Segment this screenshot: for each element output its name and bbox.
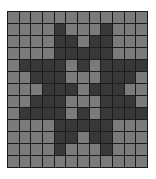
grid-cell-r3-c9 [113, 48, 124, 59]
grid-cell-r7-c11 [136, 96, 147, 107]
grid-cell-r3-c8 [101, 48, 112, 59]
grid-cell-r12-c8 [101, 156, 112, 167]
grid-cell-r2-c7 [90, 36, 101, 47]
grid-cell-r2-c3 [43, 36, 54, 47]
grid-cell-r8-c4 [55, 108, 66, 119]
grid-cell-r1-c11 [136, 24, 147, 35]
grid-cell-r9-c9 [113, 120, 124, 131]
grid-cell-r5-c2 [31, 72, 42, 83]
grid-cell-r12-c9 [113, 156, 124, 167]
grid-cell-r11-c5 [66, 144, 77, 155]
grid-cell-r1-c8 [101, 24, 112, 35]
grid-cell-r0-c0 [8, 12, 19, 23]
grid-cell-r5-c6 [78, 72, 89, 83]
grid-cell-r10-c9 [113, 132, 124, 143]
grid-cell-r7-c2 [31, 96, 42, 107]
grid-cell-r7-c4 [55, 96, 66, 107]
grid-cell-r11-c11 [136, 144, 147, 155]
grid-cell-r7-c10 [125, 96, 136, 107]
grid-cell-r9-c10 [125, 120, 136, 131]
grid-cell-r8-c8 [101, 108, 112, 119]
grid-cell-r1-c6 [78, 24, 89, 35]
grid-cell-r9-c3 [43, 120, 54, 131]
grid-cell-r9-c5 [66, 120, 77, 131]
grid-cell-r11-c10 [125, 144, 136, 155]
grid-cell-r3-c6 [78, 48, 89, 59]
grid-cell-r1-c10 [125, 24, 136, 35]
grid-cell-r12-c11 [136, 156, 147, 167]
grid-cell-r2-c8 [101, 36, 112, 47]
grid-cell-r7-c9 [113, 96, 124, 107]
grid-cell-r8-c9 [113, 108, 124, 119]
grid-cell-r9-c6 [78, 120, 89, 131]
grid-cell-r10-c5 [66, 132, 77, 143]
grid-cell-r4-c0 [8, 60, 19, 71]
grid-cell-r2-c9 [113, 36, 124, 47]
grid-cell-r6-c10 [125, 84, 136, 95]
grid-cell-r11-c1 [20, 144, 31, 155]
grid-cell-r10-c3 [43, 132, 54, 143]
grid-cell-r0-c7 [90, 12, 101, 23]
grid-cell-r8-c2 [31, 108, 42, 119]
grid-cell-r9-c0 [8, 120, 19, 131]
grid-cell-r8-c7 [90, 108, 101, 119]
grid-cell-r1-c7 [90, 24, 101, 35]
grid-cell-r0-c11 [136, 12, 147, 23]
grid-cell-r11-c7 [90, 144, 101, 155]
grid-cell-r6-c9 [113, 84, 124, 95]
grid-cell-r0-c10 [125, 12, 136, 23]
grid-cell-r4-c3 [43, 60, 54, 71]
grid-cell-r0-c4 [55, 12, 66, 23]
grid-cell-r10-c4 [55, 132, 66, 143]
grid-cell-r11-c9 [113, 144, 124, 155]
grid-cell-r3-c4 [55, 48, 66, 59]
grid-cell-r9-c2 [31, 120, 42, 131]
grid-cell-r2-c1 [20, 36, 31, 47]
grid-cell-r11-c3 [43, 144, 54, 155]
grid-cell-r6-c6 [78, 84, 89, 95]
grid-cell-r10-c10 [125, 132, 136, 143]
grid-cell-r4-c4 [55, 60, 66, 71]
grid-cell-r12-c1 [20, 156, 31, 167]
grid-cell-r9-c8 [101, 120, 112, 131]
grid-cell-r12-c2 [31, 156, 42, 167]
grid-cell-r2-c2 [31, 36, 42, 47]
grid-cell-r4-c6 [78, 60, 89, 71]
grid-cell-r7-c6 [78, 96, 89, 107]
grid-cell-r4-c1 [20, 60, 31, 71]
grid-cell-r12-c5 [66, 156, 77, 167]
snowflake-pattern-grid [7, 11, 148, 168]
grid-cell-r9-c1 [20, 120, 31, 131]
grid-cell-r8-c1 [20, 108, 31, 119]
grid-cell-r5-c1 [20, 72, 31, 83]
grid-cell-r0-c9 [113, 12, 124, 23]
grid-cell-r2-c6 [78, 36, 89, 47]
grid-cell-r6-c3 [43, 84, 54, 95]
grid-cell-r3-c5 [66, 48, 77, 59]
grid-cell-r3-c3 [43, 48, 54, 59]
grid-cell-r10-c1 [20, 132, 31, 143]
grid-cell-r12-c10 [125, 156, 136, 167]
grid-cell-r0-c3 [43, 12, 54, 23]
grid-cell-r0-c8 [101, 12, 112, 23]
grid-cell-r1-c3 [43, 24, 54, 35]
grid-cell-r10-c2 [31, 132, 42, 143]
grid-cell-r4-c5 [66, 60, 77, 71]
grid-cell-r7-c8 [101, 96, 112, 107]
grid-cell-r5-c9 [113, 72, 124, 83]
grid-cell-r2-c10 [125, 36, 136, 47]
grid-cell-r0-c1 [20, 12, 31, 23]
grid-cell-r10-c8 [101, 132, 112, 143]
grid-cell-r1-c9 [113, 24, 124, 35]
grid-cell-r1-c4 [55, 24, 66, 35]
grid-cell-r5-c5 [66, 72, 77, 83]
grid-cell-r4-c10 [125, 60, 136, 71]
grid-cell-r10-c7 [90, 132, 101, 143]
grid-cell-r4-c8 [101, 60, 112, 71]
grid-cell-r7-c0 [8, 96, 19, 107]
grid-cell-r5-c10 [125, 72, 136, 83]
grid-cell-r5-c11 [136, 72, 147, 83]
grid-cell-r0-c6 [78, 12, 89, 23]
grid-cell-r6-c7 [90, 84, 101, 95]
grid-cell-r9-c11 [136, 120, 147, 131]
